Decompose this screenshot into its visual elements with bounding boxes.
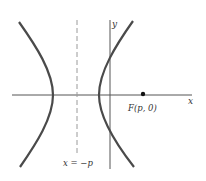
- hyperbola-figure: y x F(p, 0) x = −p: [0, 0, 206, 181]
- y-axis-label: y: [111, 19, 118, 29]
- directrix-label: x = −p: [63, 158, 93, 168]
- x-axis-label: x: [188, 96, 193, 106]
- focus-point: [141, 92, 145, 96]
- focus-label: F(p, 0): [127, 103, 157, 113]
- hyperbola-right-branch: [99, 21, 134, 167]
